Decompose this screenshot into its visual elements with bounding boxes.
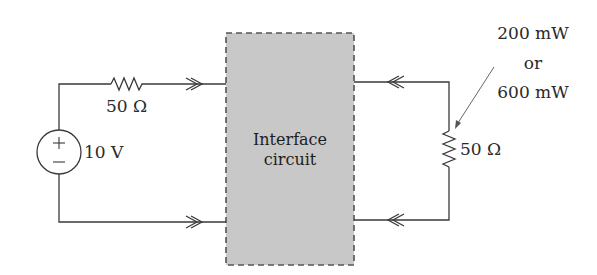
interface-label-line2: circuit [226, 150, 354, 170]
right-loop-wires [354, 82, 449, 220]
load-resistor-icon [443, 131, 455, 167]
circuit-diagram: 50 Ω 10 V Interface circuit 50 Ω 200 mW … [0, 0, 597, 275]
source-voltage-label: 10 V [84, 144, 123, 161]
voltage-source-icon [37, 130, 81, 174]
power-annotation-line2: or [483, 55, 583, 72]
interface-label-line1: Interface [226, 130, 354, 150]
power-annotation-line1: 200 mW [483, 25, 583, 42]
interface-circuit-label: Interface circuit [226, 130, 354, 170]
source-resistor-icon [111, 78, 145, 90]
power-annotation-line3: 600 mW [483, 84, 583, 101]
source-resistor-label: 50 Ω [106, 98, 147, 115]
load-resistor-label: 50 Ω [460, 141, 501, 158]
